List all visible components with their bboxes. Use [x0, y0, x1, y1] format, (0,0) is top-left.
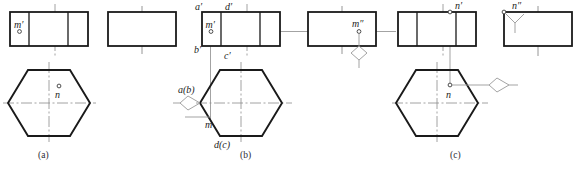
panel-c-front-view-outline	[398, 12, 476, 46]
panel-c-label-n-prime: n′	[455, 0, 463, 11]
panel-b: m′ a′ d′ b′ c′ m″ a(b) m d(c) (b)	[173, 1, 396, 162]
panel-b-label-dc: d(c)	[214, 139, 231, 151]
panel-c-point-n	[448, 83, 452, 87]
panel-b-label-m-double-prime: m″	[352, 18, 364, 29]
panel-a: m′ n (a)	[3, 4, 176, 161]
panel-a-label-m-prime: m′	[14, 19, 24, 30]
panel-c-label-n: n	[446, 89, 451, 100]
panel-b-label-m-prime: m′	[206, 19, 216, 30]
panel-b-label-d-prime: d′	[225, 1, 233, 12]
panel-a-point-m-prime	[18, 30, 22, 34]
panel-a-caption: (a)	[38, 150, 49, 161]
panel-b-label-a-prime: a′	[195, 1, 203, 12]
panel-a-point-n	[57, 84, 61, 88]
panel-b-side-view-outline	[308, 12, 376, 46]
panel-c: n′ n″ n (c)	[392, 0, 572, 161]
panel-b-label-c-prime: c′	[224, 50, 231, 61]
panel-c-point-n-prime	[448, 10, 452, 14]
panel-b-label-m: m	[205, 119, 212, 130]
panel-a-side-view-outline	[108, 12, 176, 46]
panel-c-leader-arrow-n	[489, 78, 509, 92]
panel-b-label-b-prime: b′	[194, 44, 202, 55]
panel-c-label-n-double-prime: n″	[512, 0, 522, 11]
panel-b-label-ab: a(b)	[178, 84, 195, 96]
panel-c-point-n-double-prime	[502, 10, 506, 14]
panel-b-caption: (b)	[240, 150, 251, 161]
panel-c-side-view-outline	[504, 12, 572, 46]
panel-b-point-m-prime	[209, 30, 213, 34]
engineering-drawing-figure: m′ n (a) m′ a′ d′ b′ c′ m″	[0, 0, 576, 170]
panel-c-caption: (c)	[450, 150, 461, 161]
panel-b-point-m-double-prime	[357, 30, 361, 34]
panel-a-label-n: n	[55, 89, 60, 100]
